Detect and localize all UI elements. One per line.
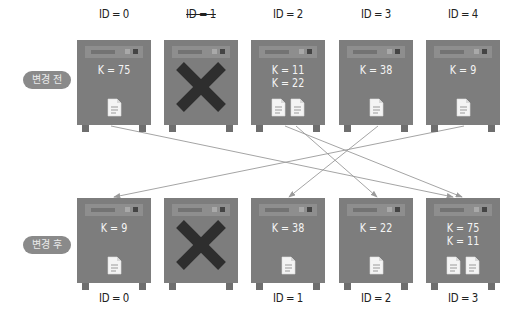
server-foot bbox=[431, 125, 438, 132]
server-foot bbox=[169, 125, 176, 132]
document-icon bbox=[465, 256, 480, 275]
server: K = 11K = 22 bbox=[251, 40, 325, 125]
server-id-label: ID = 2 bbox=[345, 291, 408, 305]
key-list: K = 38 bbox=[258, 222, 317, 235]
diagram-canvas: 변경 전 변경 후 ID = 0K = 75ID = 1ID = 2K = 11… bbox=[0, 0, 520, 326]
server-id-label: ID = 3 bbox=[345, 7, 408, 21]
server: K = 75K = 11 bbox=[426, 198, 500, 283]
server-foot bbox=[139, 283, 146, 290]
server-id-label: ID = 0 bbox=[83, 7, 146, 21]
document-icon bbox=[107, 256, 122, 275]
server-panel bbox=[347, 46, 405, 58]
key-list: K = 11K = 22 bbox=[258, 64, 317, 90]
server-foot bbox=[256, 125, 263, 132]
status-led bbox=[387, 49, 392, 54]
server-id-label: ID = 1 bbox=[170, 7, 233, 21]
document-group bbox=[251, 98, 325, 117]
power-led bbox=[482, 49, 487, 54]
document-icon bbox=[271, 98, 286, 117]
migration-arrow bbox=[285, 126, 462, 197]
drive-slot bbox=[440, 50, 464, 54]
document-group bbox=[426, 98, 500, 117]
status-led bbox=[474, 49, 479, 54]
key-value: K = 38 bbox=[258, 222, 317, 235]
key-list: K = 9 bbox=[433, 64, 492, 77]
migration-arrow bbox=[111, 126, 453, 197]
server-foot bbox=[488, 283, 495, 290]
drive-slot bbox=[353, 208, 377, 212]
server: K = 38 bbox=[251, 198, 325, 283]
power-led bbox=[133, 207, 138, 212]
server: K = 22 bbox=[339, 198, 413, 283]
status-led bbox=[125, 207, 130, 212]
power-led bbox=[395, 207, 400, 212]
server-foot bbox=[256, 283, 263, 290]
server-foot bbox=[401, 283, 408, 290]
server: K = 9 bbox=[426, 40, 500, 125]
server-id-label: ID = 0 bbox=[83, 291, 146, 305]
before-change-label: 변경 전 bbox=[23, 71, 71, 89]
key-list: K = 22 bbox=[346, 222, 405, 235]
status-led bbox=[474, 207, 479, 212]
server-foot bbox=[401, 125, 408, 132]
after-change-label: 변경 후 bbox=[23, 236, 71, 254]
power-led bbox=[220, 207, 225, 212]
document-icon bbox=[369, 256, 384, 275]
server: K = 38 bbox=[339, 40, 413, 125]
key-list: K = 9 bbox=[84, 222, 143, 235]
power-led bbox=[220, 49, 225, 54]
key-value: K = 22 bbox=[346, 222, 405, 235]
server-panel bbox=[347, 204, 405, 216]
status-led bbox=[299, 207, 304, 212]
server-foot bbox=[431, 283, 438, 290]
server-panel bbox=[434, 204, 492, 216]
server-id-label: ID = 3 bbox=[432, 291, 495, 305]
document-group bbox=[77, 98, 151, 117]
key-value: K = 22 bbox=[258, 77, 317, 90]
key-value: K = 11 bbox=[433, 235, 492, 248]
server-panel bbox=[85, 204, 143, 216]
server: K = 75 bbox=[77, 40, 151, 125]
key-list: K = 75K = 11 bbox=[433, 222, 492, 248]
server-foot bbox=[169, 283, 176, 290]
document-group bbox=[339, 256, 413, 275]
status-led bbox=[212, 207, 217, 212]
server-foot bbox=[139, 125, 146, 132]
document-group bbox=[339, 98, 413, 117]
key-value: K = 9 bbox=[433, 64, 492, 77]
document-group bbox=[251, 256, 325, 275]
migration-arrow bbox=[114, 126, 464, 197]
drive-slot bbox=[265, 50, 289, 54]
document-group bbox=[426, 256, 500, 275]
power-led bbox=[133, 49, 138, 54]
server-foot bbox=[226, 125, 233, 132]
failed-server bbox=[164, 40, 238, 125]
document-icon bbox=[369, 98, 384, 117]
status-led bbox=[299, 49, 304, 54]
key-list: K = 75 bbox=[84, 64, 143, 77]
server-foot bbox=[82, 283, 89, 290]
failed-server bbox=[164, 198, 238, 283]
drive-slot bbox=[353, 50, 377, 54]
failure-x-icon bbox=[174, 218, 228, 272]
document-icon bbox=[456, 98, 471, 117]
server-foot bbox=[82, 125, 89, 132]
drive-slot bbox=[178, 50, 202, 54]
power-led bbox=[307, 207, 312, 212]
server-id-label: ID = 4 bbox=[432, 7, 495, 21]
power-led bbox=[395, 49, 400, 54]
server-foot bbox=[313, 283, 320, 290]
power-led bbox=[307, 49, 312, 54]
server-panel bbox=[434, 46, 492, 58]
drive-slot bbox=[91, 208, 115, 212]
drive-slot bbox=[91, 50, 115, 54]
server-panel bbox=[259, 46, 317, 58]
document-icon bbox=[281, 256, 296, 275]
server-foot bbox=[344, 125, 351, 132]
server-panel bbox=[85, 46, 143, 58]
drive-slot bbox=[440, 208, 464, 212]
server-foot bbox=[488, 125, 495, 132]
status-led bbox=[212, 49, 217, 54]
document-icon bbox=[446, 256, 461, 275]
failure-x-icon bbox=[174, 60, 228, 114]
